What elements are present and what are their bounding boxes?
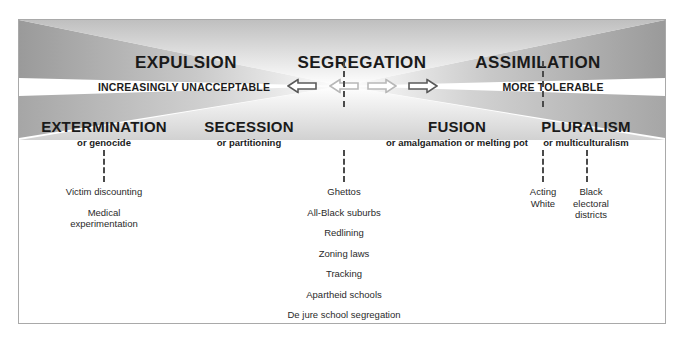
category-extermination: EXTERMINATION or genocide: [41, 118, 167, 149]
category-fusion: FUSION or amalgamation or melting pot: [386, 118, 528, 149]
list-item: Black electoral districts: [562, 186, 620, 221]
list-item: All-Black suburbs: [229, 207, 459, 219]
category-fusion-title: FUSION: [386, 118, 528, 135]
heading-segregation: SEGREGATION: [298, 53, 427, 73]
heading-assimilation: ASSIMILATION: [475, 53, 600, 73]
category-pluralism-subtitle: or multiculturalism: [541, 136, 630, 149]
label-increasingly-unacceptable: INCREASINGLY UNACCEPTABLE: [98, 81, 270, 93]
arrow-right-outer-icon: [408, 79, 438, 94]
arrow-right-inner-icon: [367, 79, 397, 94]
connector-segregation-top: [343, 61, 345, 107]
examples-assimilation: Acting White: [519, 186, 567, 218]
heading-expulsion: EXPULSION: [135, 53, 237, 73]
category-secession-subtitle: or partitioning: [204, 136, 293, 149]
arrow-left-outer-icon: [287, 79, 317, 94]
list-item: Acting White: [519, 186, 567, 209]
list-item: Tracking: [229, 268, 459, 280]
list-item: Apartheid schools: [229, 289, 459, 301]
examples-pluralism: Black electoral districts: [562, 186, 620, 230]
category-extermination-subtitle: or genocide: [41, 136, 167, 149]
examples-segregation: Ghettos All-Black suburbs Redlining Zoni…: [229, 186, 459, 324]
category-secession-title: SECESSION: [204, 118, 293, 135]
category-extermination-title: EXTERMINATION: [41, 118, 167, 135]
list-item: De jure school segregation: [229, 309, 459, 321]
diagram-frame: EXPULSION SEGREGATION ASSIMILATION INCRE…: [18, 19, 666, 324]
list-item: Medical experimentation: [29, 207, 179, 230]
category-secession: SECESSION or partitioning: [204, 118, 293, 149]
connector-pluralism: [586, 150, 588, 182]
list-item: Ghettos: [229, 186, 459, 198]
connector-fusion: [542, 150, 544, 182]
connector-assimilation-top: [542, 61, 544, 107]
connector-segregation-bottom: [343, 150, 345, 182]
list-item: Redlining: [229, 227, 459, 239]
examples-extermination: Victim discounting Medical experimentati…: [29, 186, 179, 239]
category-fusion-subtitle: or amalgamation or melting pot: [386, 136, 528, 149]
category-pluralism: PLURALISM or multiculturalism: [541, 118, 630, 149]
race-relations-continuum-diagram: EXPULSION SEGREGATION ASSIMILATION INCRE…: [0, 0, 684, 347]
list-item: Zoning laws: [229, 248, 459, 260]
connector-extermination: [103, 150, 105, 182]
category-pluralism-title: PLURALISM: [541, 118, 630, 135]
label-more-tolerable: MORE TOLERABLE: [502, 81, 603, 93]
list-item: Victim discounting: [29, 186, 179, 198]
